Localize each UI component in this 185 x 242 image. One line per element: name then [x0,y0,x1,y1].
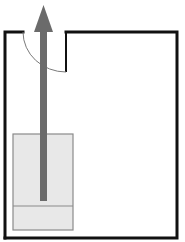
arrow-shaft [40,31,47,201]
floor-plan-svg [0,0,185,242]
arrow-head [34,5,53,32]
floor-plan-diagram [0,0,185,242]
